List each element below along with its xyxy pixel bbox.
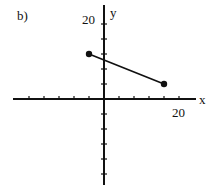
endpoint-dot — [86, 51, 92, 57]
chart: b) y x 20 20 — [0, 0, 211, 185]
x-tick-label-20: 20 — [172, 105, 185, 120]
y-tick-label-20: 20 — [82, 12, 95, 27]
x-axis-label: x — [199, 92, 206, 107]
line-segment — [89, 54, 164, 84]
endpoint-dot — [161, 81, 167, 87]
panel-label: b) — [17, 8, 28, 23]
y-axis-label: y — [110, 5, 117, 20]
axes — [13, 5, 196, 185]
data-series — [86, 51, 167, 87]
